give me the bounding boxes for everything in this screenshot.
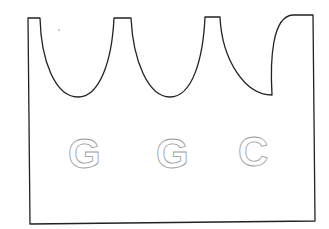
speck [58,29,60,31]
letter-g-1: G [68,130,101,177]
letter-g-2: G [156,130,189,177]
letter-c: C [238,128,268,175]
crown-shape-outline [28,15,315,224]
shape-diagram: G G C [0,0,329,229]
